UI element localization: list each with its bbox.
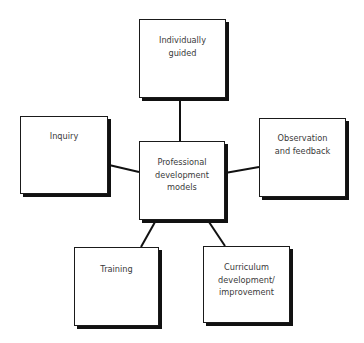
- node-individually-guided: Individually guided: [139, 19, 226, 98]
- node-label-line: development: [140, 169, 224, 182]
- node-label-line: Individually: [140, 34, 225, 47]
- node-label-line: Professional: [140, 156, 224, 169]
- edge-center-training: [141, 222, 155, 247]
- node-center-professional-development-models: Professional development models: [139, 141, 225, 220]
- diagram-canvas: Individually guided Inquiry Professional…: [0, 0, 364, 343]
- node-label-line: Inquiry: [21, 130, 107, 143]
- node-curriculum-development-improvement: Curriculum development/ improvement: [203, 246, 290, 323]
- node-label-line: Curriculum: [204, 261, 289, 274]
- node-inquiry: Inquiry: [20, 116, 108, 194]
- node-label-line: development/: [204, 274, 289, 287]
- node-training: Training: [74, 247, 159, 326]
- node-label-line: models: [140, 181, 224, 194]
- node-label-line: Observation: [260, 132, 345, 145]
- edge-center-observation-feedback: [225, 167, 259, 173]
- node-label-line: Training: [75, 263, 158, 276]
- node-label-line: improvement: [204, 286, 289, 299]
- node-label-line: guided: [140, 47, 225, 60]
- node-label-line: and feedback: [260, 145, 345, 158]
- edge-center-inquiry: [109, 165, 139, 172]
- node-observation-feedback: Observation and feedback: [259, 118, 346, 197]
- edge-center-curriculum: [209, 222, 225, 246]
